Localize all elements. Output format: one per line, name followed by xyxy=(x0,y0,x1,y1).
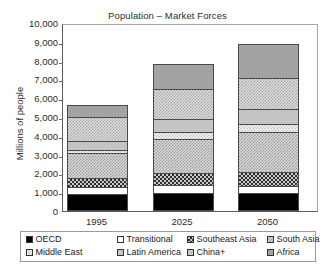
bar-segment xyxy=(153,139,214,174)
y-axis-tick-label: 3,000 xyxy=(0,150,58,161)
legend-item-label: South Asia xyxy=(277,233,320,246)
y-axis-tick-label: 7,000 xyxy=(0,74,58,85)
y-axis-tick xyxy=(59,138,63,139)
bar-segment xyxy=(238,78,299,109)
y-axis-tick-label: 5,000 xyxy=(0,112,58,123)
legend-swatch-icon xyxy=(267,249,274,256)
x-axis-tick-label: 1995 xyxy=(67,216,127,227)
y-axis-tick-label: 1,000 xyxy=(0,187,58,198)
bar-segment xyxy=(67,105,128,117)
bar-segment xyxy=(238,44,299,78)
y-axis-tick xyxy=(59,81,63,82)
legend-item-label: Latin America xyxy=(127,246,182,259)
legend-item-middle-east[interactable]: Middle East xyxy=(26,246,83,259)
bar-segment xyxy=(67,141,128,149)
bar-segment xyxy=(153,132,214,139)
bar-segment xyxy=(67,194,128,211)
bar-group-2050 xyxy=(238,23,299,211)
bar-segment xyxy=(153,89,214,119)
bar-segment xyxy=(238,132,299,171)
legend-swatch-icon xyxy=(117,236,124,243)
bar-segment xyxy=(67,150,128,153)
legend-row: Middle EastLatin AmericaChina+Africa xyxy=(23,246,313,259)
legend-item-africa[interactable]: Africa xyxy=(267,246,300,259)
y-axis-tick xyxy=(59,63,63,64)
bar-segment xyxy=(238,109,299,124)
y-axis-tick xyxy=(59,119,63,120)
y-axis-tick xyxy=(59,44,63,45)
bar-segment xyxy=(67,187,128,195)
y-axis-tick-label: 10,000 xyxy=(0,18,58,29)
legend-swatch-icon xyxy=(26,249,33,256)
legend-item-label: Transitional xyxy=(127,233,173,246)
plot-area xyxy=(62,24,318,212)
x-axis-tick-label: 2050 xyxy=(238,216,298,227)
bar-segment xyxy=(67,117,128,141)
y-axis-tick-label: 9,000 xyxy=(0,37,58,48)
chart-legend: OECDTransitionalSoutheast AsiaSouth Asia… xyxy=(20,231,316,262)
legend-item-label: Middle East xyxy=(36,246,83,259)
legend-item-southeast-asia[interactable]: Southeast Asia xyxy=(187,233,257,246)
y-axis-tick xyxy=(59,100,63,101)
y-axis-tick-label: 0 xyxy=(0,206,58,217)
bar-segment xyxy=(67,178,128,186)
y-axis-tick-label: 8,000 xyxy=(0,56,58,67)
chart-figure: Population – Market Forces Millions of p… xyxy=(0,0,335,272)
bar-segment xyxy=(153,173,214,184)
legend-swatch-icon xyxy=(187,249,194,256)
y-axis-tick-label: 4,000 xyxy=(0,131,58,142)
legend-item-latin-america[interactable]: Latin America xyxy=(117,246,181,259)
bar-segment xyxy=(67,153,128,178)
y-axis-tick-label: 6,000 xyxy=(0,93,58,104)
bar-segment xyxy=(153,119,214,132)
legend-item-transitional[interactable]: Transitional xyxy=(117,233,173,246)
legend-row: OECDTransitionalSoutheast AsiaSouth Asia xyxy=(23,233,313,246)
legend-item-label: Southeast Asia xyxy=(197,233,257,246)
bar-segment xyxy=(238,193,299,211)
y-axis-tick xyxy=(59,175,63,176)
bar-group-1995 xyxy=(67,23,128,211)
y-axis-tick xyxy=(59,194,63,195)
legend-swatch-icon xyxy=(26,236,33,243)
bar-segment xyxy=(153,193,214,211)
legend-item-south-asia[interactable]: South Asia xyxy=(267,233,320,246)
legend-item-label: China+ xyxy=(197,246,226,259)
legend-item-label: OECD xyxy=(36,233,62,246)
legend-item-oecd[interactable]: OECD xyxy=(26,233,62,246)
bar-segment xyxy=(153,64,214,88)
bar-segment xyxy=(238,124,299,132)
legend-swatch-icon xyxy=(187,236,194,243)
bar-segment xyxy=(153,185,214,193)
legend-swatch-icon xyxy=(267,236,274,243)
bar-segment xyxy=(238,186,299,194)
bar-segment xyxy=(238,172,299,186)
legend-item-china[interactable]: China+ xyxy=(187,246,225,259)
y-axis-tick-label: 2,000 xyxy=(0,168,58,179)
x-axis-tick-label: 2025 xyxy=(152,216,212,227)
legend-item-label: Africa xyxy=(277,246,300,259)
legend-swatch-icon xyxy=(117,249,124,256)
y-axis-tick xyxy=(59,157,63,158)
bar-group-2025 xyxy=(153,23,214,211)
